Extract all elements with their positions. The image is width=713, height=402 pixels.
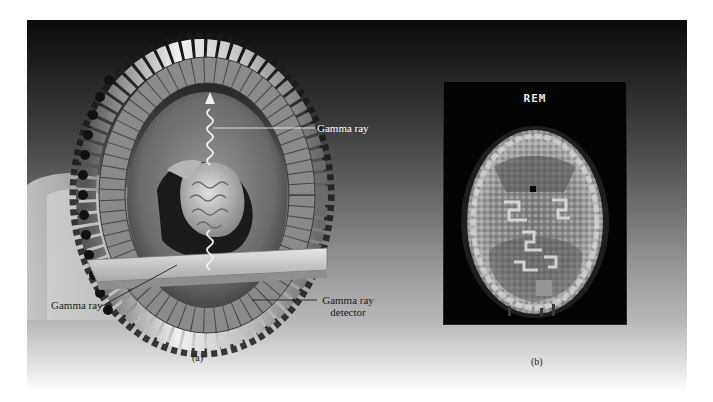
caption-panel-a: (a) [192, 352, 203, 363]
label-gamma-ray-top: Gamma ray [317, 122, 369, 134]
label-detector-line1: Gamma ray [322, 294, 374, 306]
scan-title-rem: REM [444, 92, 626, 105]
pet-brain-scan-image [444, 82, 626, 324]
pet-brain-scan-panel: REM [444, 82, 626, 324]
label-gamma-ray-bottom: Gamma ray [51, 299, 103, 311]
caption-panel-b: (b) [531, 356, 543, 367]
label-detector-line2: detector [330, 306, 365, 318]
label-gamma-ray-detector: Gamma ray detector [318, 294, 378, 318]
